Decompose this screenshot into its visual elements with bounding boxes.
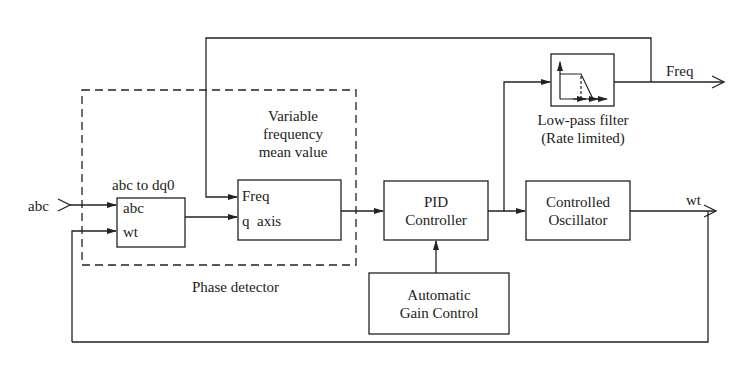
oscillator-line-1: Controlled (526, 193, 630, 211)
abc-input-chevron-icon (58, 199, 70, 211)
wt-port-label: wt (123, 223, 138, 241)
title-line-3: mean value (248, 143, 338, 161)
agc-label: Automatic Gain Control (369, 286, 509, 322)
phase-detector-label: Phase detector (192, 278, 279, 296)
abc-to-dq0-title: abc to dq0 (112, 176, 174, 194)
lowpass-caption-line-2: (Rate limited) (522, 129, 644, 147)
pid-line-2: Controller (384, 211, 488, 229)
q-axis-port-label: q axis (242, 212, 281, 230)
title-line-1: Variable (248, 107, 338, 125)
freq-output-label: Freq (666, 62, 694, 80)
title-line-2: frequency (248, 125, 338, 143)
agc-line-2: Gain Control (369, 304, 509, 322)
oscillator-line-2: Oscillator (526, 211, 630, 229)
variable-frequency-title: Variable frequency mean value (248, 107, 338, 161)
agc-line-1: Automatic (369, 286, 509, 304)
abc-input-label: abc (28, 197, 49, 215)
lowpass-caption-line-1: Low-pass filter (522, 111, 644, 129)
freq-port-label: Freq (242, 187, 270, 205)
pid-line-1: PID (384, 193, 488, 211)
pll-block-diagram: abc abc to dq0 abc wt Variable frequency… (0, 0, 753, 368)
pid-label: PID Controller (384, 193, 488, 229)
lowpass-caption: Low-pass filter (Rate limited) (522, 111, 644, 147)
oscillator-label: Controlled Oscillator (526, 193, 630, 229)
wt-output-label: wt (686, 191, 701, 209)
abc-port-label: abc (123, 199, 144, 217)
